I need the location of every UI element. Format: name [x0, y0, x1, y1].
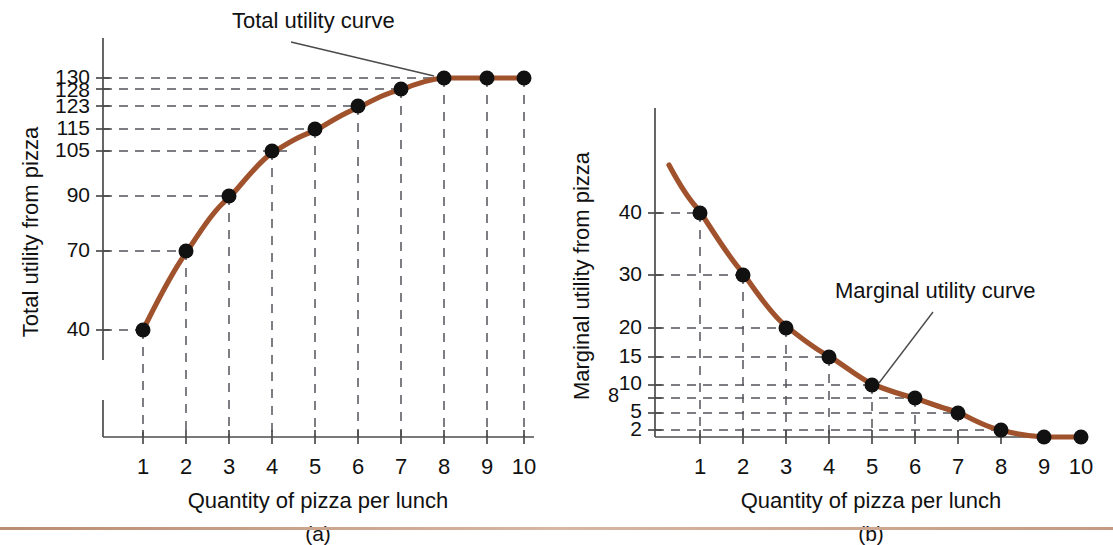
x-tick-label: 7 [952, 454, 964, 479]
x-tick-label: 9 [481, 454, 493, 479]
marginal-utility-chart: 40 30 20 15 10 8 5 2 1 2 [553, 0, 1113, 545]
vertical-guides [143, 78, 524, 437]
y-tick-label: 123 [55, 94, 90, 117]
x-tick-label: 2 [180, 454, 192, 479]
y-tick-label: 10 [619, 371, 642, 394]
x-tick-label: 6 [909, 454, 921, 479]
y-tick-label: 105 [55, 138, 90, 161]
x-tick-label: 5 [309, 454, 321, 479]
y-tick-label: 40 [67, 317, 90, 340]
y-tick-label: 30 [619, 262, 642, 285]
bottom-rule-divider [0, 527, 1113, 530]
x-axis-title: Quantity of pizza per lunch [188, 488, 448, 513]
y-tick-label: 2 [630, 417, 642, 440]
total-utility-curve-label: Total utility curve [232, 8, 395, 33]
utility-figure: 130 128 123 115 105 90 70 40 1 [0, 0, 1113, 545]
y-tick-label: 115 [57, 116, 90, 139]
y-axis-title: Marginal utility from pizza [569, 151, 594, 400]
y-tick-label: 90 [67, 183, 90, 206]
panel-total-utility: 130 128 123 115 105 90 70 40 1 [0, 0, 560, 545]
x-tick-label: 4 [266, 454, 278, 479]
x-tick-label: 3 [223, 454, 235, 479]
marginal-utility-curve-label: Marginal utility curve [835, 278, 1036, 303]
x-tick-label: 5 [866, 454, 878, 479]
total-utility-curve [146, 78, 524, 324]
panel-caption: (b) [858, 522, 884, 545]
x-tick-label: 10 [512, 454, 536, 479]
annotation-leader-line [291, 42, 434, 76]
y-tick-label: 40 [619, 200, 642, 223]
data-point-markers [693, 206, 1089, 445]
vertical-guides [700, 213, 1001, 437]
data-point-markers [136, 71, 532, 338]
y-tick-label: 20 [619, 315, 642, 338]
y-tick-label: 8 [608, 384, 619, 406]
x-tick-label: 10 [1069, 454, 1093, 479]
x-axis-title: Quantity of pizza per lunch [741, 488, 1001, 513]
x-tick-label: 6 [352, 454, 364, 479]
total-utility-chart: 130 128 123 115 105 90 70 40 1 [0, 0, 560, 545]
x-tick-label: 7 [395, 454, 407, 479]
x-tick-label: 4 [823, 454, 835, 479]
x-tick-label: 1 [137, 454, 149, 479]
x-tick-label: 1 [694, 454, 706, 479]
y-tick-label: 70 [67, 238, 90, 261]
x-tick-label: 8 [438, 454, 450, 479]
x-tick-label: 3 [780, 454, 792, 479]
annotation-leader-line [879, 312, 933, 383]
y-axis-title: Total utility from pizza [18, 126, 43, 337]
x-tick-label: 8 [995, 454, 1007, 479]
y-tick-label: 15 [619, 344, 642, 367]
x-tick-label: 2 [737, 454, 749, 479]
panel-caption: (a) [305, 522, 331, 545]
panel-marginal-utility: 40 30 20 15 10 8 5 2 1 2 [553, 0, 1113, 545]
x-tick-label: 9 [1038, 454, 1050, 479]
